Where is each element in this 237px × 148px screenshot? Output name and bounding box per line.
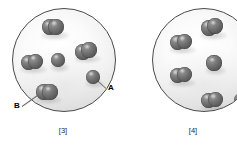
particle-layer-3 — [13, 9, 115, 111]
diatomic-molecule-atom — [42, 84, 58, 100]
callout-label-b: B — [14, 102, 20, 110]
vessel-3 — [12, 8, 116, 112]
particle-diagram-figure: [3] [4] A B — [0, 0, 237, 148]
diatomic-molecule-atom — [81, 42, 97, 58]
single-atom — [206, 55, 221, 70]
diatomic-molecule-atom — [48, 19, 64, 35]
particle-layer-4 — [153, 9, 237, 111]
callout-label-a: A — [108, 84, 114, 92]
diatomic-molecule-atom — [28, 54, 43, 69]
vessel-4 — [152, 8, 237, 112]
panel-4-caption: [4] — [179, 127, 207, 135]
panel-3-caption: [3] — [49, 127, 77, 135]
single-atom — [86, 70, 100, 84]
